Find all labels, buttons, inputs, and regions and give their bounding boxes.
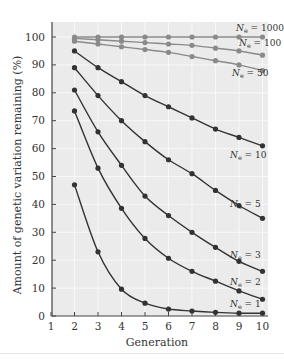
data-point	[166, 41, 171, 46]
data-point	[72, 87, 77, 92]
data-point	[142, 47, 147, 52]
data-point	[72, 108, 77, 113]
data-point	[189, 269, 194, 274]
data-point	[119, 118, 124, 123]
data-point	[95, 93, 100, 98]
data-point	[119, 206, 124, 211]
y-tick-label: 50	[32, 170, 45, 182]
data-point	[95, 249, 100, 254]
data-point	[72, 182, 77, 187]
data-point	[260, 216, 265, 221]
data-point	[72, 65, 77, 70]
data-point	[213, 58, 218, 63]
data-point	[236, 288, 241, 293]
data-point	[213, 46, 218, 51]
y-tick-label: 40	[32, 198, 45, 210]
data-point	[260, 143, 265, 148]
data-point	[189, 171, 194, 176]
data-point	[119, 39, 124, 44]
data-point	[95, 41, 100, 46]
data-point	[119, 163, 124, 168]
data-point	[95, 166, 100, 171]
data-point	[236, 311, 241, 316]
data-point	[236, 62, 241, 67]
data-point	[189, 308, 194, 313]
x-tick-label: 4	[118, 320, 125, 332]
data-point	[142, 34, 147, 39]
y-tick-label: 0	[38, 310, 45, 322]
data-point	[189, 54, 194, 59]
data-point	[142, 193, 147, 198]
data-point	[260, 269, 265, 274]
x-tick-label: 1	[48, 320, 55, 332]
y-tick-label: 30	[32, 226, 45, 238]
data-point	[213, 188, 218, 193]
x-tick-label: 7	[189, 320, 196, 332]
x-tick-label: 8	[212, 320, 219, 332]
data-point	[119, 44, 124, 49]
data-point	[166, 157, 171, 162]
divider	[0, 353, 284, 354]
data-point	[166, 104, 171, 109]
data-point	[72, 48, 77, 53]
y-tick-label: 10	[32, 282, 45, 294]
x-tick-label: 9	[236, 320, 243, 332]
data-point	[142, 301, 147, 306]
data-point	[142, 40, 147, 45]
y-tick-label: 80	[32, 86, 45, 98]
data-point	[119, 79, 124, 84]
data-point	[166, 213, 171, 218]
data-point	[213, 245, 218, 250]
data-point	[119, 287, 124, 292]
data-point	[213, 34, 218, 39]
y-axis-title: Amount of genetic variation remaining (%…	[11, 56, 24, 296]
y-tick-label: 70	[32, 114, 45, 126]
data-point	[166, 256, 171, 261]
data-point	[213, 279, 218, 284]
data-point	[142, 236, 147, 241]
x-axis-title: Generation	[126, 336, 188, 349]
data-point	[166, 34, 171, 39]
data-point	[189, 43, 194, 48]
y-tick-label: 60	[32, 142, 45, 154]
data-point	[189, 34, 194, 39]
data-point	[72, 39, 77, 44]
data-point	[236, 135, 241, 140]
genetic-variation-chart: 0102030405060708090100 12345678910 Ne = …	[0, 0, 284, 363]
data-point	[142, 93, 147, 98]
data-point	[213, 126, 218, 131]
data-point	[260, 311, 265, 316]
data-point	[142, 139, 147, 144]
x-tick-label: 2	[71, 320, 78, 332]
data-point	[260, 53, 265, 58]
y-tick-label: 100	[25, 31, 45, 43]
plot-area	[52, 22, 268, 316]
data-point	[166, 306, 171, 311]
data-point	[95, 129, 100, 134]
data-point	[166, 50, 171, 55]
data-point	[236, 48, 241, 53]
y-axis-ticks: 0102030405060708090100	[25, 31, 56, 322]
data-point	[189, 115, 194, 120]
x-tick-label: 6	[165, 320, 172, 332]
x-tick-label: 5	[142, 320, 149, 332]
x-tick-label: 3	[95, 320, 102, 332]
y-tick-label: 20	[32, 254, 45, 266]
x-tick-label: 10	[256, 320, 269, 332]
data-point	[189, 230, 194, 235]
data-point	[213, 310, 218, 315]
y-tick-label: 90	[32, 58, 45, 70]
data-point	[95, 65, 100, 70]
